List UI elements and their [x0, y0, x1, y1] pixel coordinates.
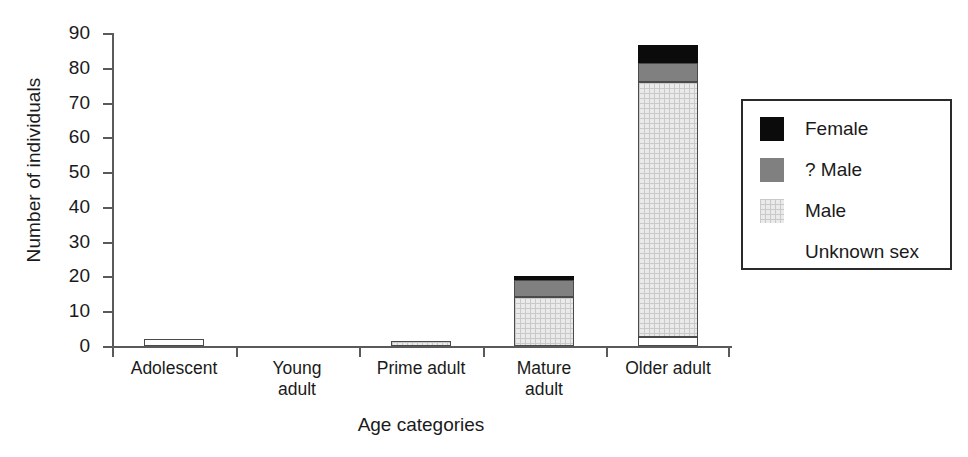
legend-item-question-male[interactable]: ? Male	[760, 157, 862, 183]
x-category-line: Young	[237, 358, 357, 379]
legend-label: Female	[805, 118, 868, 140]
x-tick-boundary-0	[112, 346, 114, 357]
x-category-line: Mature	[484, 358, 604, 379]
y-tick-label-10: 10	[69, 300, 90, 322]
bar-adolescent[interactable]	[144, 339, 204, 346]
y-tick-label-50: 50	[69, 161, 90, 183]
white-swatch-icon	[760, 240, 784, 264]
bar-segment-question-male[interactable]	[638, 63, 698, 82]
y-axis-title: Number of individuals	[23, 70, 45, 270]
bar-older-adult[interactable]	[638, 45, 698, 346]
stacked-bar-chart-figure: Number of individuals 90 80 70 60 50 40 …	[0, 0, 968, 457]
legend-label: ? Male	[805, 159, 862, 181]
y-tick-label-80: 80	[69, 56, 90, 78]
bar-segment-unknown-sex[interactable]	[144, 339, 204, 346]
y-tick-90: 90	[103, 33, 112, 35]
legend-item-female[interactable]: Female	[760, 116, 868, 142]
y-tick-label-90: 90	[69, 22, 90, 44]
y-tick-60: 60	[103, 137, 112, 139]
bar-segment-female[interactable]	[638, 45, 698, 62]
x-category-label-older-adult: Older adult	[608, 358, 728, 379]
y-tick-10: 10	[103, 311, 112, 313]
bar-segment-male[interactable]	[638, 82, 698, 338]
dark-gray-swatch-icon	[760, 158, 784, 182]
legend-label: Male	[805, 200, 846, 222]
x-category-line: adult	[484, 379, 604, 400]
legend-item-male[interactable]: Male	[760, 198, 846, 224]
x-category-label-mature-adult: Mature adult	[484, 358, 604, 400]
legend-box: Female ? Male Male Unknown sex	[741, 99, 952, 270]
x-tick-boundary-4	[606, 346, 608, 357]
y-tick-label-20: 20	[69, 265, 90, 287]
y-tick-label-70: 70	[69, 91, 90, 113]
y-tick-40: 40	[103, 207, 112, 209]
y-tick-label-60: 60	[69, 126, 90, 148]
x-category-label-young-adult: Young adult	[237, 358, 357, 400]
x-category-line: Adolescent	[114, 358, 234, 379]
bar-segment-male[interactable]	[514, 297, 574, 346]
y-tick-30: 30	[103, 242, 112, 244]
y-axis-line	[112, 33, 114, 347]
bar-segment-male[interactable]	[391, 341, 451, 346]
x-tick-boundary-1	[236, 346, 238, 357]
bar-segment-female[interactable]	[514, 276, 574, 280]
bar-prime-adult[interactable]	[391, 341, 451, 346]
bar-segment-unknown-sex[interactable]	[638, 337, 698, 346]
x-category-label-prime-adult: Prime adult	[361, 358, 481, 379]
y-tick-50: 50	[103, 172, 112, 174]
bar-mature-adult[interactable]	[514, 276, 574, 346]
light-gray-swatch-icon	[760, 199, 784, 223]
y-tick-label-40: 40	[69, 195, 90, 217]
y-tick-70: 70	[103, 103, 112, 105]
x-category-line: adult	[237, 379, 357, 400]
x-tick-boundary-2	[359, 346, 361, 357]
bar-segment-question-male[interactable]	[514, 280, 574, 297]
y-tick-label-30: 30	[69, 230, 90, 252]
legend-label: Unknown sex	[805, 241, 919, 263]
plot-area: 90 80 70 60 50 40 30 20 10 0	[112, 33, 730, 346]
x-axis-title: Age categories	[112, 414, 730, 436]
y-tick-0: 0	[103, 346, 112, 348]
x-category-line: Older adult	[608, 358, 728, 379]
x-tick-boundary-5	[728, 346, 730, 357]
x-category-line: Prime adult	[361, 358, 481, 379]
x-tick-boundary-3	[483, 346, 485, 357]
y-tick-80: 80	[103, 68, 112, 70]
black-swatch-icon	[760, 117, 784, 141]
y-tick-20: 20	[103, 276, 112, 278]
legend-item-unknown-sex[interactable]: Unknown sex	[760, 239, 919, 265]
y-tick-label-0: 0	[79, 335, 90, 357]
x-axis-line	[110, 346, 732, 348]
x-category-label-adolescent: Adolescent	[114, 358, 234, 379]
